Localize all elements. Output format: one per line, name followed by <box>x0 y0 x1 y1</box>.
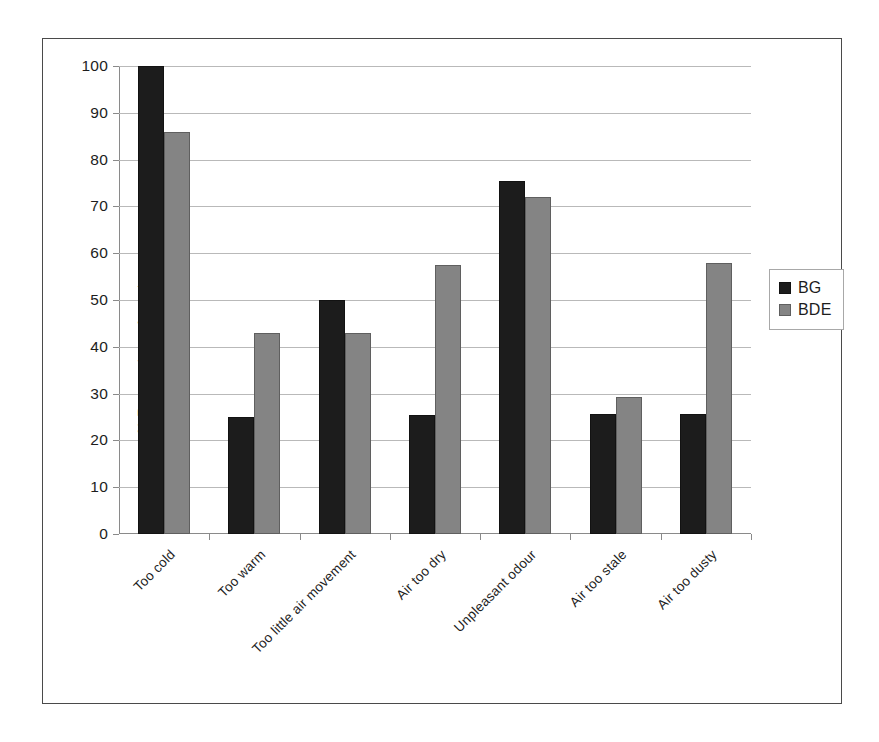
y-axis-tick <box>113 206 119 207</box>
x-axis-tick <box>751 534 752 540</box>
x-axis-category-label: Too cold <box>126 547 178 599</box>
bar-bg <box>590 414 616 534</box>
chart-page-frame: % Respondents Agreeing 10090807060504030… <box>42 38 842 704</box>
y-axis-tick <box>113 347 119 348</box>
bar-bg <box>138 66 164 534</box>
y-axis-tick-label: 80 <box>90 151 108 169</box>
bar-group <box>409 66 461 534</box>
y-axis-tick <box>113 487 119 488</box>
y-axis-tick <box>113 440 119 441</box>
chart-legend: BG BDE <box>769 269 844 330</box>
bar-bde <box>435 265 461 534</box>
bar-bg <box>319 300 345 534</box>
x-axis-tick <box>661 534 662 540</box>
bar-bg <box>228 417 254 534</box>
legend-item-bde: BDE <box>779 299 832 321</box>
bar-bde <box>706 263 732 534</box>
y-axis-tick-label: 40 <box>90 338 108 356</box>
bar-bg <box>409 415 435 534</box>
y-axis-tick <box>113 160 119 161</box>
y-axis-tick-label: 0 <box>99 525 108 543</box>
legend-swatch-bde <box>779 304 791 316</box>
y-axis-tick-label: 100 <box>82 57 108 75</box>
y-axis-tick-label: 70 <box>90 197 108 215</box>
y-axis-tick <box>113 394 119 395</box>
y-axis-tick-label: 30 <box>90 385 108 403</box>
x-axis-tick <box>480 534 481 540</box>
y-axis-tick <box>113 66 119 67</box>
y-axis-tick <box>113 534 119 535</box>
bar-group <box>590 66 642 534</box>
legend-label-bde: BDE <box>798 301 832 319</box>
y-axis-tick-label: 20 <box>90 431 108 449</box>
legend-swatch-bg <box>779 282 791 294</box>
plot-area: 1009080706050403020100 Too coldToo warmT… <box>119 66 751 534</box>
bar-group <box>228 66 280 534</box>
bar-bde <box>164 132 190 534</box>
bar-group <box>680 66 732 534</box>
x-axis-tick <box>390 534 391 540</box>
x-axis-category-label: Too little air movement <box>179 547 359 727</box>
bar-bde <box>345 333 371 534</box>
y-axis-tick <box>113 113 119 114</box>
bar-bde <box>525 197 551 534</box>
y-axis-tick-label: 90 <box>90 104 108 122</box>
legend-label-bg: BG <box>798 279 822 297</box>
x-axis-tick <box>209 534 210 540</box>
x-axis-tick <box>300 534 301 540</box>
y-axis-tick <box>113 253 119 254</box>
bar-group <box>138 66 190 534</box>
y-axis-tick-label: 60 <box>90 244 108 262</box>
bar-bg <box>680 414 706 534</box>
legend-item-bg: BG <box>779 277 832 299</box>
bar-bg <box>499 181 525 534</box>
y-axis-tick-label: 10 <box>90 478 108 496</box>
bar-bde <box>254 333 280 534</box>
y-axis-tick <box>113 300 119 301</box>
bar-group <box>499 66 551 534</box>
x-axis-tick <box>570 534 571 540</box>
bar-group <box>319 66 371 534</box>
y-axis-tick-label: 50 <box>90 291 108 309</box>
bar-bde <box>616 397 642 534</box>
